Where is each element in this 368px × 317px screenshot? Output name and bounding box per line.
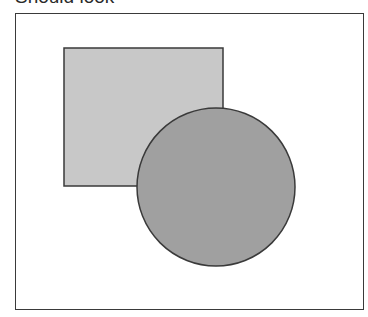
diagram-canvas — [0, 0, 368, 317]
circle-shape — [137, 108, 295, 266]
